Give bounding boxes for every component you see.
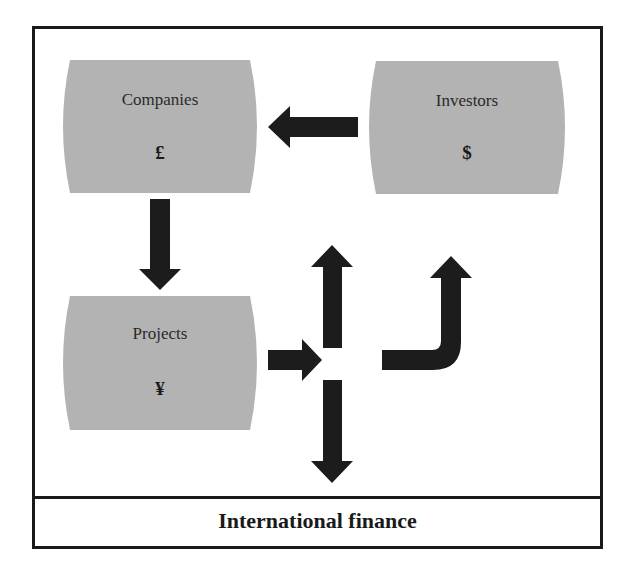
arrow-down-icon (139, 199, 181, 290)
arrow-right-icon (268, 339, 322, 381)
arrow-down-icon (311, 380, 353, 483)
arrow-up-icon (311, 245, 353, 348)
arrows-layer (0, 0, 633, 569)
arrow-left-icon (268, 106, 358, 148)
arrow-curved-up-icon (382, 256, 472, 370)
